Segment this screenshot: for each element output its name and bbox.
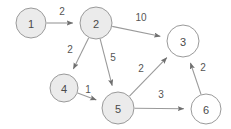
graph-edge-2-to-3	[112, 26, 160, 36]
node-label-6: 6	[203, 104, 209, 116]
edge-weight-1-2: 2	[59, 6, 65, 17]
node-label-3: 3	[180, 36, 186, 48]
graph-node-6[interactable]: 6	[191, 94, 221, 124]
edge-weight-5-6: 3	[158, 89, 164, 100]
edge-weight-4-5: 1	[85, 84, 91, 95]
node-label-4: 4	[61, 83, 67, 95]
graph-edge-5-to-6	[134, 108, 183, 109]
edge-weight-2-5: 5	[110, 52, 116, 63]
graph-node-4[interactable]: 4	[50, 74, 78, 102]
graph-node-1[interactable]: 1	[16, 8, 46, 38]
node-label-5: 5	[115, 103, 121, 115]
edge-weight-2-3: 10	[135, 12, 147, 23]
node-label-2: 2	[93, 18, 99, 30]
edge-weight-2-4: 2	[67, 44, 73, 55]
node-label-1: 1	[28, 18, 34, 30]
graph-node-3[interactable]: 3	[167, 25, 199, 57]
graph-diagram-canvas: 123456 210251232	[0, 0, 231, 129]
edge-weight-5-3: 2	[138, 63, 144, 74]
graph-node-2[interactable]: 2	[80, 7, 112, 39]
nodes-layer: 123456	[16, 7, 221, 124]
graph-edge-2-to-4	[73, 38, 88, 69]
edge-weight-6-3: 2	[200, 62, 206, 73]
graph-svg: 123456 210251232	[0, 0, 231, 129]
graph-node-5[interactable]: 5	[102, 92, 134, 124]
